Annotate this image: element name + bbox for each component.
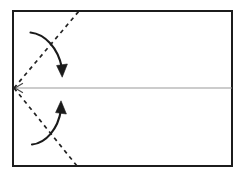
fold-diagram-svg (0, 0, 245, 176)
diagram-canvas (0, 0, 245, 176)
